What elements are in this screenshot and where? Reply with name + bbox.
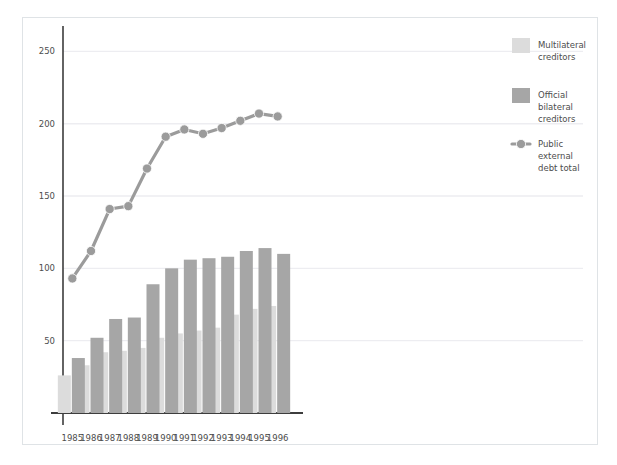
line-point-1996 (273, 112, 282, 121)
bar-1992-series-1 (203, 258, 216, 413)
bar-1989-series-1 (147, 284, 160, 413)
line-point-1986 (86, 246, 95, 255)
line-point-1992 (198, 129, 207, 138)
y-axis-tick-50: 50 (44, 336, 55, 346)
bar-1988-series-1 (128, 318, 141, 413)
legend-label-2-line-2: debt total (538, 163, 580, 173)
bar-1985-series-1 (72, 358, 85, 413)
legend-label-1-line-1: bilateral (538, 102, 573, 112)
line-point-1990 (161, 132, 170, 141)
bar-1986-series-1 (91, 338, 104, 413)
legend-swatch-0 (512, 38, 530, 53)
legend-swatch-1 (512, 88, 530, 103)
legend-label-0-line-0: Multilateral (538, 40, 586, 50)
bar-1995-series-1 (259, 248, 272, 413)
legend-label-1-line-2: creditors (538, 114, 576, 124)
legend-item-1[interactable]: Officialbilateralcreditors (512, 88, 576, 124)
line-point-1993 (217, 123, 226, 132)
legend-label-1-line-0: Official (538, 90, 568, 100)
bar-1987-series-1 (109, 319, 122, 413)
y-axis-tick-200: 200 (39, 119, 55, 129)
legend-dot-icon-2 (516, 139, 525, 148)
legend-label-2-line-0: Public (538, 139, 563, 149)
x-axis-tick-1996: 1996 (267, 433, 289, 443)
line-point-1985 (68, 274, 77, 283)
line-point-1991 (180, 125, 189, 134)
line-point-1987 (105, 204, 114, 213)
bar-1990-series-1 (165, 268, 178, 413)
chart-page: 5010015020025019851986198719881989199019… (0, 0, 617, 465)
bar-1994-series-1 (240, 251, 253, 413)
line-point-1989 (142, 164, 151, 173)
bar-1991-series-1 (184, 260, 197, 413)
y-axis-tick-100: 100 (39, 263, 55, 273)
line-point-1988 (124, 202, 133, 211)
bar-1993-series-1 (221, 257, 234, 413)
legend-label-0-line-1: creditors (538, 52, 576, 62)
chart-frame: 5010015020025019851986198719881989199019… (22, 17, 598, 445)
line-point-1994 (236, 116, 245, 125)
bar-1985-series-0 (58, 375, 71, 413)
legend-item-0[interactable]: Multilateralcreditors (512, 38, 586, 62)
bar-1996-series-1 (277, 254, 290, 413)
y-axis-tick-150: 150 (39, 191, 55, 201)
legend-label-2-line-1: external (538, 151, 573, 161)
debt-composition-chart: 5010015020025019851986198719881989199019… (23, 18, 597, 444)
legend-item-2[interactable]: Publicexternaldebt total (512, 139, 580, 173)
line-point-1995 (254, 109, 263, 118)
y-axis-tick-250: 250 (39, 46, 55, 56)
